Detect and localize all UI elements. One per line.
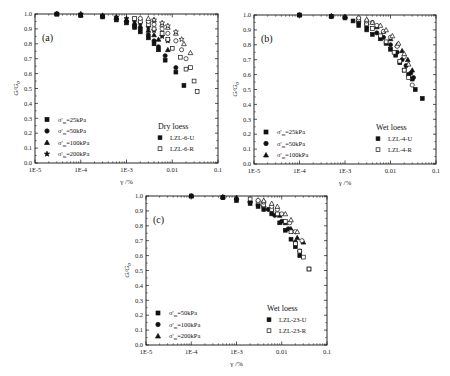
panel-label: (c): [153, 214, 164, 226]
y-tick-label: 0.1: [24, 144, 32, 151]
y-tick-label: 1.0: [135, 192, 143, 199]
square-marker: [248, 197, 252, 201]
legend-sample-icon: [376, 137, 380, 141]
legend-sample-label: LZL-6-R: [170, 145, 194, 152]
triangle-marker: [269, 201, 274, 205]
square-marker: [407, 76, 411, 80]
legend-pressure-label: σ'm=100kPa: [58, 139, 89, 148]
circle-marker: [166, 31, 170, 35]
legend-sample-icon: [267, 329, 271, 333]
data-series: [189, 194, 306, 244]
x-tick-label: 0.01: [385, 167, 396, 174]
circle-marker: [138, 16, 142, 20]
square-marker: [166, 37, 170, 41]
square-marker: [307, 267, 311, 271]
y-tick-label: 1.0: [24, 10, 32, 17]
legend-pressure-label: σ'm=100kPa: [169, 321, 200, 330]
square-marker: [195, 90, 199, 94]
circle-marker: [163, 54, 167, 58]
legend-title: Wet loess: [267, 304, 298, 313]
square-marker: [192, 79, 196, 83]
legend-triangle-icon: [45, 140, 50, 145]
y-tick-label: 0.4: [24, 100, 33, 107]
square-marker: [370, 27, 374, 31]
y-tick-label: 0.1: [243, 145, 251, 152]
legend-sample-icon: [267, 318, 271, 322]
y-tick-label: 0.5: [243, 86, 251, 93]
data-series: [297, 13, 414, 72]
x-tick-label: 0.1: [432, 167, 440, 174]
circle-marker: [160, 27, 164, 31]
square-marker: [160, 31, 164, 35]
legend-sample-icon: [158, 147, 162, 151]
square-marker: [379, 34, 383, 38]
circle-marker: [152, 39, 156, 43]
x-axis-title: γ /%: [338, 179, 352, 187]
legend-pressure-label: σ'm=50kPa: [169, 309, 197, 318]
y-tick-label: 0.8: [24, 40, 32, 47]
triangle-marker: [289, 217, 294, 221]
x-tick-label: 1E-5: [140, 348, 153, 355]
legend-sample-icon: [376, 148, 380, 152]
x-tick-label: 0.1: [214, 166, 222, 173]
panel-label: (b): [261, 33, 273, 45]
circle-marker: [152, 22, 156, 26]
circle-marker: [184, 57, 188, 61]
legend-title: Dry loess: [158, 122, 188, 131]
circle-marker: [174, 39, 178, 43]
legend-circle-icon: [156, 322, 160, 326]
triangle-marker: [275, 204, 280, 208]
triangle-marker: [146, 16, 151, 20]
y-tick-label: 0.7: [243, 56, 252, 63]
circle-marker: [388, 43, 392, 47]
y-tick-label: 0.8: [243, 41, 251, 48]
legend-pressure-label: σ'm=100kPa: [277, 151, 308, 160]
circle-marker: [410, 83, 414, 87]
legend-star-icon: [44, 151, 49, 156]
legend-sample-label: LZL-23-U: [279, 316, 307, 323]
square-marker: [351, 19, 355, 23]
y-tick-label: 0.7: [135, 237, 144, 244]
y-tick-label: 0.2: [24, 129, 32, 136]
y-tick-label: 0.3: [135, 297, 143, 304]
y-tick-label: 0.7: [24, 55, 33, 62]
legend-sample-icon: [158, 136, 162, 140]
chart-panel-a: 0.00.10.20.30.40.50.60.70.80.91.01E-51E-…: [12, 10, 222, 186]
square-marker: [389, 47, 393, 51]
legend-sample-label: LZL-4-U: [388, 135, 412, 142]
legend-pressure-label: σ'm=25kPa: [58, 116, 86, 125]
legend-pressure-label: σ'm=200kPa: [58, 150, 89, 159]
square-marker: [178, 55, 182, 59]
x-axis-title: γ /%: [229, 360, 243, 368]
square-marker: [182, 84, 186, 88]
square-marker: [370, 32, 374, 36]
circle-marker: [174, 66, 178, 70]
legend-circle-icon: [264, 141, 268, 145]
y-tick-label: 0.9: [24, 25, 32, 32]
x-tick-label: 0.1: [323, 348, 331, 355]
y-tick-label: 0.6: [135, 252, 144, 259]
square-marker: [163, 58, 167, 62]
chart-panel-b: 0.00.10.20.30.40.50.60.70.80.91.01E-51E-…: [231, 11, 440, 187]
square-marker: [384, 40, 388, 44]
y-tick-label: 0.1: [135, 326, 143, 333]
legend-sample-label: LZL-23-R: [279, 327, 307, 334]
circle-marker: [156, 45, 160, 49]
y-tick-label: 0.4: [243, 101, 252, 108]
square-marker: [420, 97, 424, 101]
legend-square-icon: [156, 311, 160, 315]
legend-sample-label: LZL-6-U: [170, 134, 194, 141]
y-tick-label: 0.9: [243, 26, 251, 33]
star-marker: [173, 29, 178, 34]
panel-label: (a): [42, 32, 53, 44]
square-marker: [289, 230, 293, 234]
square-marker: [133, 17, 137, 21]
square-marker: [301, 255, 305, 259]
x-tick-label: 1E-4: [185, 348, 198, 355]
square-marker: [398, 59, 402, 63]
legend-sample-label: LZL-4-R: [388, 146, 412, 153]
y-tick-label: 0.8: [135, 222, 143, 229]
x-tick-label: 0.01: [276, 348, 287, 355]
square-marker: [174, 70, 178, 74]
triangle-marker: [165, 47, 170, 51]
